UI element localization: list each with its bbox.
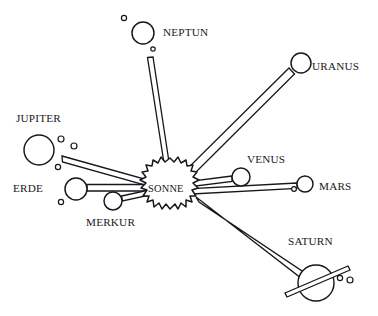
- neptun-moon-1: [121, 15, 126, 20]
- planet-venus: VENUS: [232, 153, 285, 186]
- uranus-body: [291, 53, 311, 73]
- jupiter-body: [24, 135, 54, 165]
- saturn-moon-2: [347, 277, 353, 283]
- erde-label: ERDE: [13, 182, 43, 194]
- jupiter-moon-1: [58, 136, 64, 142]
- neptun-body: [132, 22, 154, 44]
- jupiter-label: JUPITER: [16, 112, 61, 124]
- mars-moon-1: [292, 187, 297, 192]
- venus-label: VENUS: [247, 153, 285, 165]
- mars-label: MARS: [319, 180, 352, 192]
- rod-erde: [87, 185, 146, 192]
- merkur-label: MERKUR: [86, 216, 135, 228]
- solar-system-diagram: SONNE NEPTUN URANUS JUPITER ERDE: [0, 0, 378, 316]
- jupiter-moon-3: [55, 164, 60, 169]
- rod-neptun: [148, 57, 170, 163]
- venus-body: [232, 168, 250, 186]
- jupiter-moon-2: [71, 143, 77, 149]
- merkur-body: [104, 192, 122, 210]
- planet-uranus: URANUS: [291, 53, 359, 73]
- mars-body: [297, 176, 313, 192]
- neptun-moon-2: [151, 47, 155, 51]
- sun-label: SONNE: [148, 183, 184, 194]
- erde-body: [65, 178, 87, 200]
- sun-group: SONNE: [140, 157, 199, 209]
- saturn-label: SATURN: [288, 235, 333, 247]
- planet-neptun: NEPTUN: [121, 15, 208, 51]
- planet-mars: MARS: [292, 176, 352, 192]
- erde-moon-1: [58, 199, 63, 204]
- saturn-moon-1: [337, 275, 342, 280]
- uranus-label: URANUS: [312, 60, 359, 72]
- diagram-canvas: SONNE NEPTUN URANUS JUPITER ERDE: [0, 0, 378, 316]
- neptun-label: NEPTUN: [163, 26, 208, 38]
- planet-erde: ERDE: [13, 178, 87, 205]
